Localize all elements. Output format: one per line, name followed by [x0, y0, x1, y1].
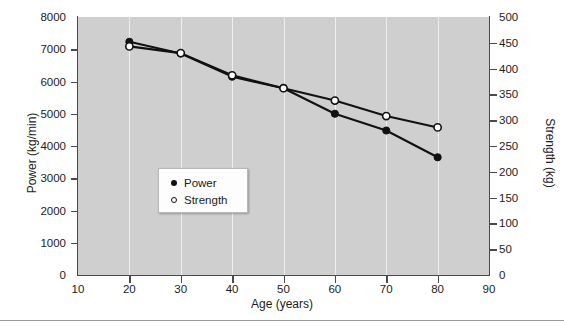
y-tick-label-left: 6000 — [40, 76, 66, 88]
x-tick — [181, 276, 182, 283]
y-tick-left — [71, 211, 78, 212]
y-tick-label-right: 50 — [499, 243, 512, 255]
x-tick-label: 40 — [226, 283, 239, 295]
y-tick-label-left: 8000 — [40, 11, 66, 23]
y-tick-right — [490, 249, 497, 250]
y-tick-left — [71, 146, 78, 147]
chart-figure: 0100020003000400050006000700080000501001… — [0, 0, 564, 329]
gridline-vertical — [438, 17, 439, 275]
plot-area — [78, 17, 489, 275]
y-tick-right — [490, 172, 497, 173]
y-tick-label-right: 350 — [499, 88, 518, 100]
x-tick-label: 80 — [431, 283, 444, 295]
y-tick-left — [71, 178, 78, 179]
y-tick-right — [490, 198, 497, 199]
x-tick-label: 90 — [483, 283, 496, 295]
y-tick-label-left: 2000 — [40, 205, 66, 217]
y-tick-right — [490, 69, 497, 70]
x-tick — [335, 276, 336, 283]
y-tick-right — [490, 223, 497, 224]
y-tick-label-left: 0 — [60, 269, 66, 281]
chart-legend: Power Strength — [158, 168, 248, 213]
gridline-vertical — [284, 17, 285, 275]
y-tick-label-right: 150 — [499, 192, 518, 204]
y-tick-label-right: 250 — [499, 140, 518, 152]
filled-circle-icon — [168, 180, 180, 186]
y-tick-label-left: 4000 — [40, 140, 66, 152]
y-axis-right-title: Strength (kg) — [543, 58, 557, 248]
y-tick-label-left: 7000 — [40, 43, 66, 55]
x-tick-label: 30 — [174, 283, 187, 295]
legend-label-strength: Strength — [184, 194, 227, 206]
y-tick-right — [490, 120, 497, 121]
gridline-vertical — [181, 17, 182, 275]
x-tick-label: 70 — [380, 283, 393, 295]
y-tick-label-right: 100 — [499, 217, 518, 229]
x-tick-label: 50 — [277, 283, 290, 295]
x-tick — [438, 276, 439, 283]
footer-divider — [0, 320, 564, 321]
x-tick — [232, 276, 233, 283]
legend-item-strength: Strength — [168, 191, 247, 208]
y-tick-label-left: 1000 — [40, 237, 66, 249]
gridline-vertical — [232, 17, 233, 275]
y-tick-label-right: 0 — [499, 269, 505, 281]
y-tick-left — [71, 243, 78, 244]
y-tick-label-right: 400 — [499, 63, 518, 75]
y-tick-label-right: 200 — [499, 166, 518, 178]
y-tick-right — [490, 94, 497, 95]
y-tick-label-right: 300 — [499, 114, 518, 126]
x-tick-label: 20 — [123, 283, 136, 295]
y-tick-right — [490, 146, 497, 147]
gridline-vertical — [335, 17, 336, 275]
open-circle-icon — [168, 197, 180, 203]
legend-item-power: Power — [168, 174, 247, 191]
legend-label-power: Power — [184, 177, 217, 189]
gridline-vertical — [386, 17, 387, 275]
x-tick — [284, 276, 285, 283]
x-tick-label: 60 — [328, 283, 341, 295]
x-tick-label: 10 — [72, 283, 85, 295]
y-axis-left-title: Power (kg/min) — [25, 58, 39, 248]
y-tick-label-right: 500 — [499, 11, 518, 23]
y-tick-left — [71, 49, 78, 50]
x-axis-title: Age (years) — [0, 297, 564, 311]
y-tick-right — [490, 43, 497, 44]
x-tick — [386, 276, 387, 283]
y-tick-label-left: 3000 — [40, 172, 66, 184]
y-tick-label-right: 450 — [499, 37, 518, 49]
y-tick-left — [71, 114, 78, 115]
y-tick-label-left: 5000 — [40, 108, 66, 120]
y-tick-left — [71, 82, 78, 83]
gridline-vertical — [129, 17, 130, 275]
x-tick — [129, 276, 130, 283]
